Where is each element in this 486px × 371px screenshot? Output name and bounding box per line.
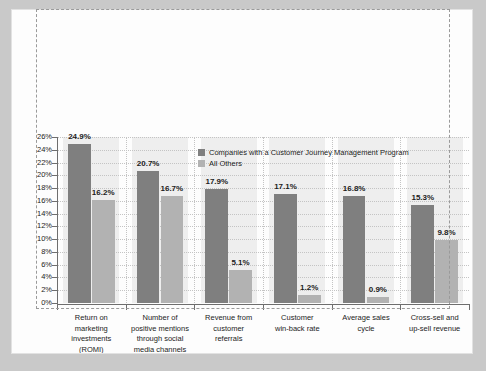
y-axis-tick-label: 10% (22, 235, 52, 243)
y-axis-tick (52, 175, 57, 176)
bar-value-label: 16.2% (84, 189, 123, 197)
y-axis-tick-label: 16% (22, 197, 52, 205)
y-axis-tick (52, 214, 57, 215)
bar-value-label: 5.1% (221, 259, 260, 267)
legend-label: Companies with a Customer Journey Manage… (209, 149, 409, 157)
y-axis-tick-label: 4% (22, 273, 52, 281)
y-axis-tick (52, 239, 57, 240)
y-axis-line (57, 137, 58, 304)
chart-window-frame: 26%24%22%20%18%16%14%12%10%8%6%4%2%0% Re… (0, 0, 486, 371)
chart-canvas[interactable]: 26%24%22%20%18%16%14%12%10%8%6%4%2%0% Re… (11, 9, 473, 354)
y-axis-tick (52, 188, 57, 189)
y-axis-tick (52, 252, 57, 253)
bar-value-label: 16.8% (335, 185, 374, 193)
bar-value-label: 1.2% (290, 284, 329, 292)
y-axis-tick (52, 290, 57, 291)
bar[interactable] (161, 196, 184, 303)
y-axis-tick (52, 277, 57, 278)
category-label-line: referrals (189, 334, 269, 345)
bar-value-label: 15.3% (404, 194, 443, 202)
x-axis-tick (57, 304, 58, 310)
bar[interactable] (68, 144, 91, 303)
bar-value-label: 0.9% (359, 286, 398, 294)
x-axis-tick (194, 304, 195, 310)
y-axis-tick-label: 22% (22, 159, 52, 167)
y-axis-tick (52, 163, 57, 164)
y-axis-tick-label: 0% (22, 299, 52, 307)
y-axis-tick-label: 14% (22, 210, 52, 218)
y-axis-tick (52, 265, 57, 266)
legend-swatch-icon (198, 149, 205, 156)
y-axis-tick-label: 6% (22, 261, 52, 269)
bar[interactable] (367, 297, 390, 303)
chart-legend: Companies with a Customer Journey Manage… (198, 149, 409, 170)
y-axis-tick (52, 201, 57, 202)
bar[interactable] (205, 189, 228, 303)
bar[interactable] (298, 295, 321, 303)
y-axis-tick-label: 24% (22, 146, 52, 154)
bar-value-label: 20.7% (129, 160, 168, 168)
legend-item[interactable]: All Others (198, 160, 409, 168)
y-axis-tick (52, 226, 57, 227)
x-axis-tick (126, 304, 127, 310)
x-axis-tick (263, 304, 264, 310)
y-axis-labels: 26%24%22%20%18%16%14%12%10%8%6%4%2%0% (18, 10, 52, 354)
bar[interactable] (435, 240, 458, 303)
y-axis-tick (52, 137, 57, 138)
bar-value-label: 17.1% (266, 183, 305, 191)
x-axis-tick (332, 304, 333, 310)
bar-value-label: 24.9% (60, 133, 99, 141)
legend-label: All Others (209, 160, 242, 168)
bar-value-label: 9.8% (427, 229, 466, 237)
category-label-line: Cross-sell and (395, 313, 473, 324)
y-axis-tick-label: 2% (22, 286, 52, 294)
y-axis-tick-label: 18% (22, 184, 52, 192)
gridline-vertical (126, 137, 127, 303)
y-axis-tick (52, 150, 57, 151)
bar[interactable] (92, 200, 115, 303)
category-label-line: up-sell revenue (395, 324, 473, 335)
bar-value-label: 16.7% (153, 185, 192, 193)
bar-value-label: 17.9% (198, 178, 237, 186)
y-axis-tick-label: 20% (22, 171, 52, 179)
legend-swatch-icon (198, 160, 205, 167)
gridline-vertical (194, 137, 195, 303)
bar[interactable] (411, 205, 434, 303)
x-axis-tick (469, 304, 470, 310)
y-axis-tick-label: 26% (22, 133, 52, 141)
x-axis-category-label: Cross-sell andup-sell revenue (395, 313, 473, 334)
y-axis-tick-label: 12% (22, 222, 52, 230)
y-axis-tick-label: 8% (22, 248, 52, 256)
bar[interactable] (229, 270, 252, 303)
category-label-line: media channels (120, 345, 200, 355)
legend-item[interactable]: Companies with a Customer Journey Manage… (198, 149, 409, 157)
x-axis-tick (400, 304, 401, 310)
